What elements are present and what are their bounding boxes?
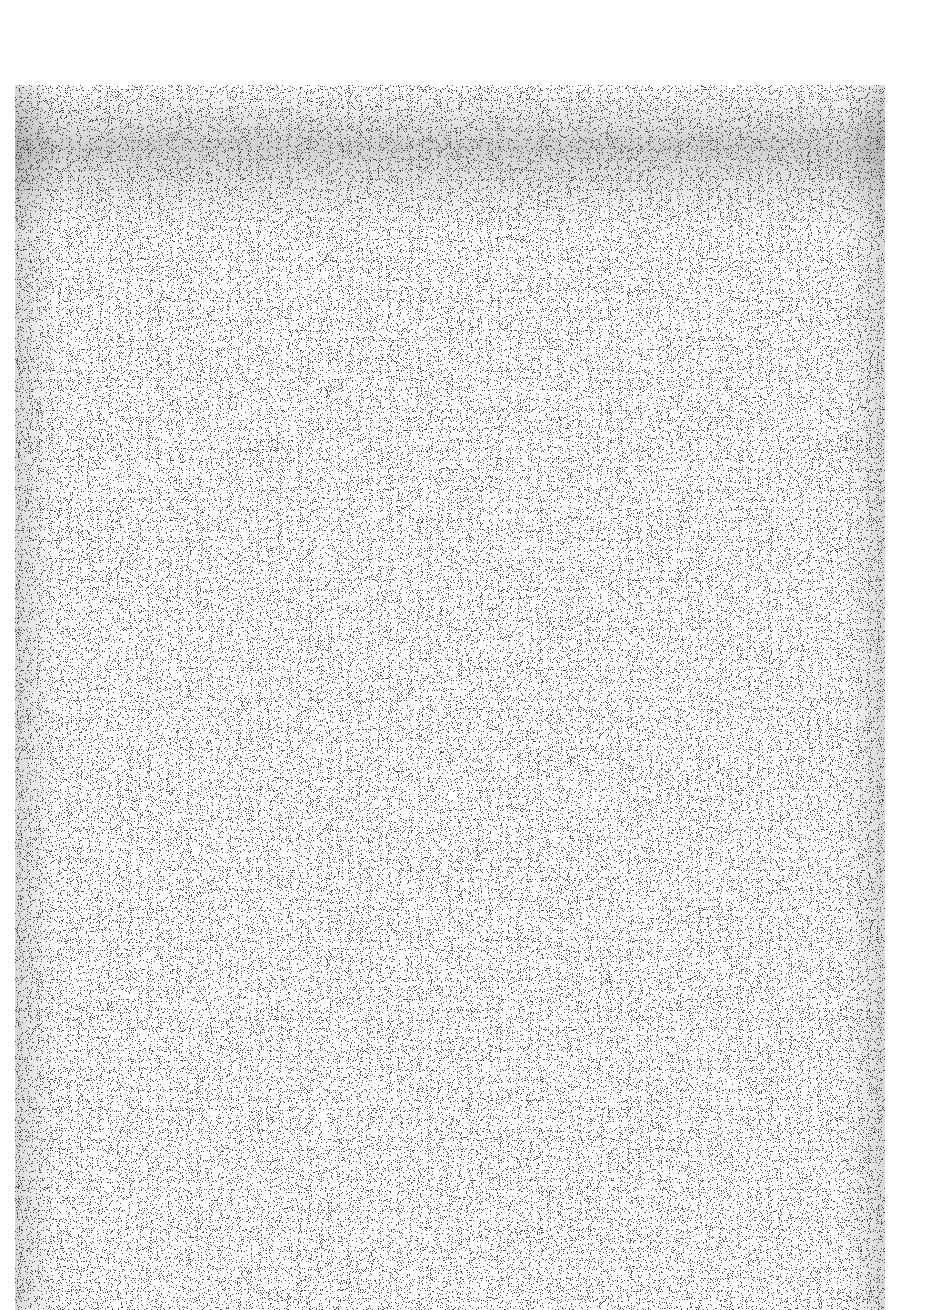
noise-texture (15, 85, 885, 1310)
scanned-document-sheet: Scanned page, content illegible (dense h… (15, 85, 885, 1310)
page: Scanned page, content illegible (dense h… (0, 0, 946, 1310)
